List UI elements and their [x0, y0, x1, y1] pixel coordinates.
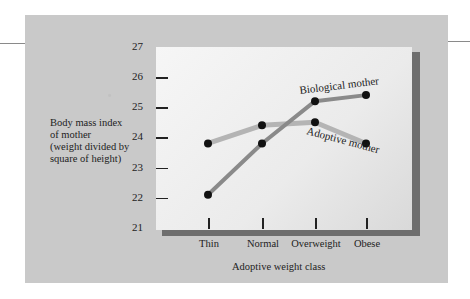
chart-lines: Biological mother Adoptive mother: [0, 0, 470, 299]
data-point-marker: [258, 121, 266, 129]
data-point-marker: [204, 139, 212, 147]
data-point-marker: [258, 139, 266, 147]
series-label-adoptive: Adoptive mother: [305, 124, 381, 155]
data-point-marker: [311, 97, 319, 105]
data-point-marker: [204, 191, 212, 199]
data-point-marker: [362, 91, 370, 99]
